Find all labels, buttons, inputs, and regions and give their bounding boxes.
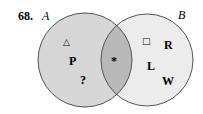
element-r: R bbox=[164, 38, 173, 52]
set-b-label: B bbox=[178, 8, 186, 22]
element-question: ? bbox=[80, 73, 86, 87]
element-asterisk: * bbox=[111, 54, 117, 68]
set-a-label: A bbox=[41, 9, 50, 23]
square-icon: □ bbox=[142, 36, 151, 46]
element-l: L bbox=[147, 59, 155, 73]
triangle-icon: △ bbox=[63, 37, 70, 47]
element-p: P bbox=[69, 54, 76, 68]
element-w: W bbox=[162, 74, 174, 88]
problem-number: 68. bbox=[18, 9, 33, 23]
venn-diagram: 68. A B △ P ? * □ R L W bbox=[0, 0, 203, 114]
